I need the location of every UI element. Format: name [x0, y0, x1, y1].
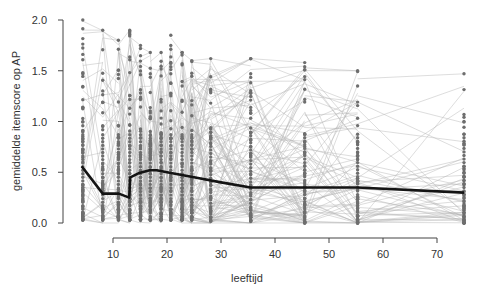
- y-axis-title: gemiddelde itemscore op AP: [10, 51, 22, 191]
- y-tick-label: 1.5: [32, 65, 47, 77]
- x-axis: 10203040506070: [107, 238, 443, 260]
- x-tick-label: 60: [377, 248, 389, 260]
- x-tick-label: 70: [431, 248, 443, 260]
- y-tick-label: 1.0: [32, 116, 47, 128]
- y-tick-label: 0.5: [32, 166, 47, 178]
- x-tick-label: 50: [323, 248, 335, 260]
- x-tick-label: 40: [269, 248, 281, 260]
- x-tick-label: 10: [107, 248, 119, 260]
- y-axis: 0.00.51.01.52.0: [32, 14, 63, 229]
- y-tick-label: 0.0: [32, 217, 47, 229]
- spaghetti-chart: 0.00.51.01.52.0 10203040506070 gemiddeld…: [0, 0, 479, 298]
- x-tick-label: 20: [161, 248, 173, 260]
- x-tick-label: 30: [215, 248, 227, 260]
- y-tick-label: 2.0: [32, 14, 47, 26]
- x-axis-title: leeftijd: [231, 272, 263, 284]
